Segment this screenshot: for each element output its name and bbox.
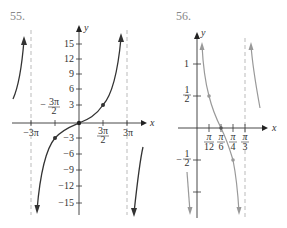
svg-text:2: 2 <box>185 157 190 168</box>
svg-text:12: 12 <box>204 141 214 152</box>
y-tick-12: 12 <box>64 53 74 64</box>
curve-left-arrow-icon <box>21 36 27 45</box>
y-axis-arrow-icon <box>194 32 200 39</box>
x-tick-neg3pi: −3π <box>23 127 39 138</box>
y-tick-neg-half: − 1 2 <box>176 148 191 168</box>
problem-label-56: 56. <box>176 9 191 23</box>
curve-arrow-up-icon <box>200 42 205 50</box>
y-tick-neg15: −15 <box>58 197 74 208</box>
y-tick-neg9: −9 <box>63 164 74 175</box>
x-tick-pi-4: π 4 <box>229 131 237 152</box>
svg-text:3: 3 <box>243 141 248 152</box>
curve-right-branch <box>134 147 143 213</box>
curve-right-arrow-icon <box>131 208 137 217</box>
point-neg-half <box>231 158 235 162</box>
graph-56: 56. x y 1 1 2 − 1 2 <box>176 9 277 218</box>
svg-text:2: 2 <box>185 93 190 104</box>
x-axis-arrow-icon <box>141 120 147 126</box>
curve-arrow-down-icon <box>35 205 41 214</box>
curve-right-arrow-icon <box>249 42 254 50</box>
svg-text:2: 2 <box>101 134 106 145</box>
curve-left-arrow-icon <box>188 207 193 215</box>
point-neg <box>53 136 57 140</box>
y-tick-3: 3 <box>69 99 74 110</box>
curve-right-branch <box>251 45 260 108</box>
svg-text:2: 2 <box>52 105 57 116</box>
graph-55: 55. x y 15 12 9 6 3 <box>10 9 155 217</box>
y-tick-9: 9 <box>69 68 74 79</box>
y-tick-neg3: −3 <box>63 132 74 143</box>
y-tick-neg12: −12 <box>58 180 74 191</box>
x-axis-arrow-icon <box>262 125 268 131</box>
y-tick-half: 1 2 <box>183 84 191 104</box>
y-tick-15: 15 <box>64 38 74 49</box>
svg-text:−: − <box>176 154 182 165</box>
x-axis-label: x <box>271 122 277 133</box>
point-origin <box>77 121 81 125</box>
svg-text:4: 4 <box>231 141 236 152</box>
curve-left-branch <box>13 40 24 99</box>
y-tick-6: 6 <box>69 83 74 94</box>
x-tick-pi-12: π 12 <box>204 131 214 152</box>
graphs-canvas: 55. x y 15 12 9 6 3 <box>0 0 287 228</box>
x-axis-label: x <box>149 117 155 128</box>
svg-text:6: 6 <box>219 141 224 152</box>
x-tick-pi-3: π 3 <box>241 131 249 152</box>
point-zero <box>219 126 223 130</box>
point-pos <box>101 103 105 107</box>
x-tick-3pi: 3π <box>123 127 133 138</box>
svg-text:−: − <box>40 99 46 110</box>
x-tick-neg-3pi-over-2: − 3π 2 <box>40 96 60 116</box>
point-half <box>207 94 211 98</box>
curve-arrow-down-icon <box>237 207 242 215</box>
y-axis-label: y <box>83 22 89 33</box>
problem-label-55: 55. <box>10 9 25 23</box>
curve-left-branch <box>187 172 190 212</box>
y-axis-label: y <box>200 27 206 38</box>
y-tick-1: 1 <box>184 58 189 69</box>
curve-arrow-up-icon <box>118 33 124 42</box>
y-axis-arrow-icon <box>76 25 82 32</box>
y-tick-neg6: −6 <box>63 148 74 159</box>
x-tick-3pi-over-2: 3π 2 <box>97 125 109 145</box>
